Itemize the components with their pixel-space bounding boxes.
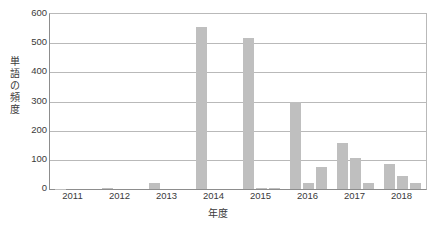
plot-area [49, 13, 427, 190]
bar-group-2014 [191, 14, 238, 189]
y-tick-label: 500 [16, 37, 47, 47]
x-axis-tick-labels: 20112012201320142015201620172018 [49, 190, 425, 204]
bar [303, 183, 314, 189]
y-tick-label: 600 [16, 8, 47, 18]
bar-group-2011 [50, 14, 97, 189]
x-axis-title: 年度 [0, 208, 436, 220]
bar [397, 176, 408, 189]
bar [243, 38, 254, 189]
bar-group-2016 [285, 14, 332, 189]
y-tick-label: 100 [16, 154, 47, 164]
bar [196, 27, 207, 189]
bar-group-2017 [332, 14, 379, 189]
x-tick-label: 2016 [285, 190, 331, 202]
x-tick-label: 2012 [97, 190, 143, 202]
x-tick-label: 2013 [144, 190, 190, 202]
x-tick-label: 2011 [50, 190, 96, 202]
x-tick-label: 2015 [238, 190, 284, 202]
bar-group-2018 [379, 14, 426, 189]
bar [337, 143, 348, 189]
bar [102, 188, 113, 189]
x-tick-label: 2018 [379, 190, 425, 202]
y-tick-label: 0 [16, 183, 47, 193]
x-tick-label: 2014 [191, 190, 237, 202]
bar [316, 167, 327, 189]
bar-group-2013 [144, 14, 191, 189]
bar [290, 102, 301, 190]
y-tick-label: 400 [16, 67, 47, 77]
y-tick-label: 200 [16, 125, 47, 135]
bar [256, 188, 267, 189]
bar [149, 183, 160, 189]
bar [410, 183, 421, 189]
bars-layer [50, 14, 426, 189]
x-tick-label: 2017 [332, 190, 378, 202]
y-tick-label: 300 [16, 96, 47, 106]
bar-group-2015 [238, 14, 285, 189]
y-axis-tick-labels: 0100200300400500600 [16, 0, 47, 233]
bar-group-2012 [97, 14, 144, 189]
bar [269, 188, 280, 189]
bar [384, 164, 395, 189]
bar [363, 183, 374, 189]
bar-chart: 単語の頻度 0100200300400500600 20112012201320… [0, 0, 436, 233]
bar [350, 158, 361, 189]
